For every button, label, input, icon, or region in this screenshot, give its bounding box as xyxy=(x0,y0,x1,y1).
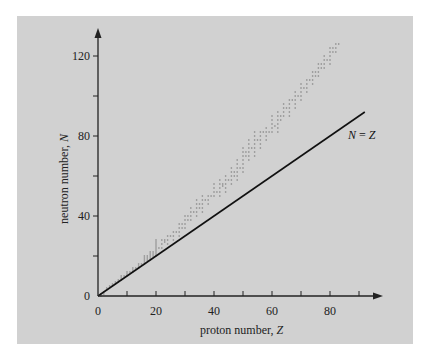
n-equals-z-line xyxy=(98,112,365,296)
y-axis-title: neutron number, N xyxy=(58,133,70,225)
y-axis-title-var: N xyxy=(57,134,71,142)
x-axis-title-text: proton number, xyxy=(200,323,277,337)
x-tick-label: 20 xyxy=(141,305,171,317)
x-axis-title-var: Z xyxy=(277,323,284,337)
x-axis-title: proton number, Z xyxy=(200,324,283,336)
x-tick-label: 60 xyxy=(257,305,287,317)
x-tick-label: 40 xyxy=(199,305,229,317)
y-axis xyxy=(93,28,102,296)
n-equals-z-label: N = Z xyxy=(348,128,375,143)
y-axis-arrow-icon xyxy=(95,28,102,38)
stable-nuclide-points xyxy=(100,43,339,296)
x-axis-arrow-icon xyxy=(373,293,383,300)
y-axis-title-text: neutron number, xyxy=(57,142,71,224)
x-tick-label: 0 xyxy=(83,305,113,317)
line-label-rhs: Z xyxy=(369,128,376,142)
y-tick-label: 120 xyxy=(60,50,90,62)
x-axis xyxy=(98,291,383,300)
line-label-op: = xyxy=(356,128,369,142)
y-tick-label: 0 xyxy=(60,290,90,302)
x-tick-label: 80 xyxy=(315,305,345,317)
line-label-lhs: N xyxy=(348,128,356,142)
